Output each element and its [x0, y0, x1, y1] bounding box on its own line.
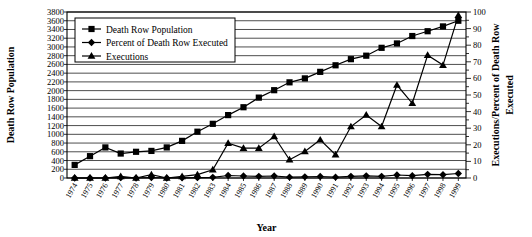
data-point-marker — [255, 173, 262, 180]
x-axis-tick-label: 1981 — [171, 182, 187, 200]
data-point-marker — [348, 56, 354, 62]
x-axis-tick-label: 1975 — [79, 182, 95, 200]
data-point-marker — [117, 172, 125, 179]
data-point-marker — [148, 148, 154, 154]
y-axis-tick-label: 0 — [60, 173, 64, 183]
data-point-marker — [347, 173, 354, 180]
x-axis-tick-label: 1986 — [248, 182, 264, 200]
legend-item-label: Executions — [106, 52, 149, 62]
chart-legend: Death Row PopulationPercent of Death Row… — [75, 18, 235, 62]
data-point-marker — [72, 162, 78, 168]
x-axis-title: Year — [257, 222, 278, 233]
data-point-marker — [102, 144, 108, 150]
x-axis-tick-label: 1998 — [432, 182, 448, 200]
data-point-marker — [256, 95, 262, 101]
y2-axis-tick-label: 20 — [473, 140, 482, 150]
y-axis-title: Death Row Population — [5, 46, 16, 143]
y-axis-tick-label: 3600 — [47, 16, 64, 26]
data-point-marker — [87, 153, 93, 159]
x-axis-tick-label: 1983 — [202, 182, 218, 200]
x-axis-tick-label: 1989 — [294, 182, 310, 200]
y2-axis-tick-label: 50 — [473, 90, 482, 100]
data-point-marker — [316, 136, 324, 143]
x-axis-tick-label: 1980 — [156, 182, 172, 200]
data-point-marker — [439, 171, 446, 178]
x-axis-tick-label: 1995 — [386, 182, 402, 200]
data-point-marker — [424, 171, 431, 178]
data-point-marker — [362, 111, 370, 118]
y-axis-tick-label: 2200 — [47, 77, 64, 87]
data-point-marker — [286, 79, 292, 85]
x-axis-tick-label: 1985 — [232, 182, 248, 200]
data-point-marker — [301, 173, 308, 180]
data-point-marker — [394, 40, 400, 46]
y2-axis-tick-label: 80 — [473, 40, 482, 50]
chart-container: 0200400600800100012001400160018002000220… — [0, 0, 532, 237]
data-point-marker — [194, 129, 200, 135]
x-axis-tick-label: 1994 — [371, 182, 387, 200]
series-percent-of-death-row-executed — [71, 170, 462, 182]
x-axis-tick-label: 1996 — [401, 182, 417, 200]
y-axis-tick-label: 200 — [51, 164, 64, 174]
y-axis-tick-label: 3800 — [47, 7, 64, 17]
data-point-marker — [210, 121, 216, 127]
x-axis-tick-label: 1990 — [309, 182, 325, 200]
y-axis-tick-label: 1000 — [47, 129, 64, 139]
data-point-marker — [270, 172, 277, 179]
data-point-marker — [424, 51, 432, 58]
x-axis-tick-label: 1976 — [94, 182, 110, 200]
y-axis-tick-label: 1200 — [47, 121, 64, 131]
y-axis-tick-label: 800 — [51, 138, 64, 148]
data-point-marker — [301, 148, 309, 155]
data-point-marker — [378, 45, 384, 51]
y-axis-tick-label: 400 — [51, 156, 64, 166]
data-point-marker — [164, 144, 170, 150]
y-axis-tick-label: 1600 — [47, 103, 64, 113]
data-point-marker — [270, 133, 278, 140]
y2-axis-tick-label: 60 — [473, 73, 482, 83]
data-point-marker — [378, 173, 385, 180]
data-point-marker — [332, 62, 338, 68]
y2-axis-title-line: Executed — [504, 75, 515, 115]
y-axis-tick-label: 3400 — [47, 24, 64, 34]
data-point-marker — [317, 69, 323, 75]
data-point-marker — [363, 53, 369, 59]
data-point-marker — [179, 138, 185, 144]
data-point-marker — [240, 172, 247, 179]
data-point-marker — [225, 112, 231, 118]
y-axis-tick-label: 2600 — [47, 59, 64, 69]
x-axis-tick-label: 1992 — [340, 182, 356, 200]
x-axis-tick-label: 1991 — [324, 182, 340, 200]
y2-axis-tick-label: 10 — [473, 156, 482, 166]
data-point-marker — [240, 104, 246, 110]
legend-item-label: Death Row Population — [106, 25, 193, 35]
x-axis-tick-label: 1993 — [355, 182, 371, 200]
x-axis-tick-label: 1999 — [447, 182, 463, 200]
legend-item-label: Percent of Death Row Executed — [106, 38, 228, 48]
x-axis-tick-label: 1978 — [125, 182, 141, 200]
y2-axis-tick-label: 70 — [473, 57, 482, 67]
y-axis-tick-label: 1800 — [47, 94, 64, 104]
data-point-marker — [440, 23, 446, 29]
x-axis-tick-label: 1982 — [186, 182, 202, 200]
x-axis-tick-label: 1988 — [278, 182, 294, 200]
y-axis-tick-label: 2000 — [47, 86, 64, 96]
data-point-marker — [286, 173, 293, 180]
y2-axis-tick-label: 30 — [473, 123, 482, 133]
y-axis-tick-label: 600 — [51, 147, 64, 157]
x-axis-tick-label: 1974 — [64, 182, 80, 200]
x-axis-tick-label: 1979 — [140, 182, 156, 200]
x-axis-tick-label: 1977 — [110, 182, 126, 200]
x-axis-tick-label: 1997 — [417, 182, 433, 200]
chart-svg: 0200400600800100012001400160018002000220… — [0, 0, 532, 237]
data-point-marker — [148, 171, 156, 178]
y-axis-tick-label: 2800 — [47, 51, 64, 61]
data-point-marker — [133, 149, 139, 155]
data-point-marker — [378, 123, 386, 130]
y2-axis-tick-label: 90 — [473, 24, 482, 34]
y2-axis-title-line: Executions/Percent of Death Row — [490, 23, 501, 167]
data-point-marker — [302, 75, 308, 81]
y-axis-tick-label: 2400 — [47, 68, 64, 78]
data-point-marker — [425, 28, 431, 34]
data-point-marker — [286, 156, 294, 163]
